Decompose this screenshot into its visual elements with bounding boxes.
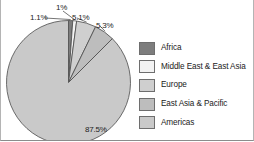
pie-slice (6, 21, 130, 142)
legend-label-middle-east-east-asia: Middle East & East Asia (161, 63, 246, 71)
slice-value-label-east-asia-pacific: 5.3% (96, 21, 113, 30)
leader-line (45, 18, 71, 20)
slice-value-label-europe: 5.1% (72, 13, 89, 22)
chart-legend: Africa Middle East & East Asia Europe Ea… (139, 39, 254, 132)
legend-swatch-icon-americas (139, 116, 155, 129)
legend-item-africa: Africa (139, 39, 254, 58)
legend-label-americas: Americas (161, 119, 194, 127)
legend-label-east-asia-pacific: East Asia & Pacific (161, 100, 227, 108)
legend-item-americas: Americas (139, 113, 254, 132)
legend-item-middle-east-east-asia: Middle East & East Asia (139, 58, 254, 77)
legend-swatch-icon-europe (139, 79, 155, 92)
legend-swatch-icon-east-asia-pacific (139, 98, 155, 111)
pie-plot-area: 1.1% 1% 5.1% 5.3% 87.5% (1, 0, 141, 141)
legend-label-africa: Africa (161, 44, 181, 52)
slice-value-label-africa: 1.1% (30, 13, 47, 22)
pie-chart-figure: 1.1% 1% 5.1% 5.3% 87.5% Africa Middle Ea… (0, 0, 254, 141)
slice-value-label-middle-east-east-asia: 1% (56, 3, 67, 12)
legend-item-east-asia-pacific: East Asia & Pacific (139, 95, 254, 114)
legend-swatch-icon-middle-east-east-asia (139, 60, 155, 73)
slice-value-label-americas: 87.5% (85, 125, 107, 134)
legend-label-europe: Europe (161, 81, 187, 89)
pie-chart-svg (1, 0, 141, 141)
pie-slice-group (6, 21, 130, 142)
legend-item-europe: Europe (139, 76, 254, 95)
legend-swatch-icon-africa (139, 42, 155, 55)
